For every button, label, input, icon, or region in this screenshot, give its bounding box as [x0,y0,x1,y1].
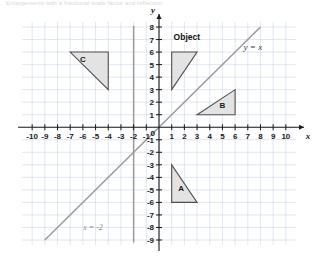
x-tick-label: -6 [79,132,87,141]
y-tick-label: 3 [150,86,155,95]
x-tick-label: 9 [271,132,276,141]
y-tick-label: 8 [150,23,155,32]
y-axis-name: y [150,5,156,15]
x-tick-label: -3 [117,132,125,141]
y-tick-label: -4 [147,173,155,182]
x-tick-label: -8 [54,132,62,141]
x-tick-label: 4 [208,132,213,141]
x-tick-label: -5 [92,132,100,141]
y-tick-label: -8 [147,223,155,232]
y-tick-label: 2 [150,98,155,107]
shape-label-b: B [220,101,226,110]
x-tick-label: 3 [195,132,200,141]
y-tick-label: 4 [150,73,155,82]
shape-label-a: A [178,184,184,193]
line-equation-label-y-x: y = x [243,42,263,52]
y-tick-label: -3 [147,161,155,170]
x-tick-label: 5 [220,132,225,141]
shape-label-c: C [80,55,86,64]
y-tick-label: 6 [150,48,155,57]
x-tick-label: 7 [246,132,251,141]
y-tick-label: 1 [150,111,155,120]
shape-c [70,52,108,90]
x-tick-label: 8 [258,132,263,141]
x-tick-label: -2 [130,132,138,141]
line-equation-label-x-2: x = -2 [82,223,103,232]
x-tick-label: 2 [182,132,187,141]
coordinate-grid-figure: -10-9-8-7-6-5-4-3-2-11234567891087654321… [0,0,313,267]
x-tick-label: 10 [281,132,290,141]
x-tick-label: 6 [233,132,238,141]
x-tick-label: -4 [105,132,113,141]
y-tick-label: -5 [147,186,155,195]
y-tick-label: -7 [147,211,155,220]
x-tick-label: -7 [67,132,75,141]
y-tick-label: 5 [150,61,155,70]
x-tick-label: -9 [41,132,49,141]
x-axis-arrow-icon [299,125,304,130]
y-tick-label: -2 [147,148,155,157]
y-axis-arrow-icon [156,14,161,19]
origin-label: 0 [151,129,156,138]
y-tick-label: -9 [147,236,155,245]
y-tick-label: -6 [147,198,155,207]
x-axis-name: x [305,131,311,141]
x-tick-label: -10 [26,132,38,141]
shape-label-object: Object [174,32,201,42]
y-tick-label: 7 [150,36,155,45]
x-tick-label: 1 [169,132,174,141]
